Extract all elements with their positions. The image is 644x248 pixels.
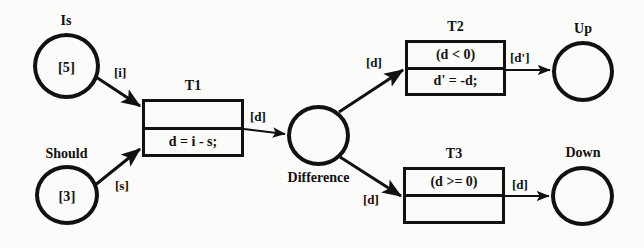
transition-action-t1: d = i - s;	[145, 130, 241, 155]
arc-label-difference-to-t2: [d]	[366, 55, 382, 71]
arc-t1-to-difference	[244, 129, 285, 134]
place-label-is: Is	[33, 13, 99, 29]
arc-is-to-t1	[96, 77, 140, 106]
place-label-difference: Difference	[268, 170, 369, 186]
place-up[interactable]	[552, 41, 614, 102]
place-label-should: Should	[20, 146, 113, 162]
transition-t2[interactable]: (d < 0) d' = -d;	[405, 40, 506, 96]
transition-t1[interactable]: d = i - s;	[142, 99, 244, 157]
arc-label-is-to-t1: [i]	[114, 65, 126, 81]
transition-guard-t1	[145, 102, 241, 130]
place-label-down: Down	[541, 145, 625, 161]
arc-label-difference-to-t3: [d]	[363, 192, 379, 208]
transition-t3[interactable]: (d >= 0)	[403, 167, 505, 224]
place-difference[interactable]	[287, 105, 350, 166]
place-is[interactable]: [5]	[33, 33, 100, 99]
transition-label-t2: T2	[405, 19, 506, 35]
transition-action-t2: d' = -d;	[408, 70, 503, 94]
arc-label-t1-to-difference: [d]	[250, 109, 266, 125]
place-token-should: [3]	[39, 189, 95, 205]
transition-label-t1: T1	[142, 78, 244, 94]
transition-guard-t2: (d < 0)	[408, 43, 503, 70]
transition-label-t3: T3	[403, 146, 505, 162]
petri-net-diagram: Is [5] Should [3] T1 d = i - s; Differen…	[0, 0, 644, 248]
arc-label-t2-to-up: [d']	[510, 50, 530, 66]
place-down[interactable]	[551, 166, 614, 226]
transition-action-t3	[406, 197, 502, 221]
arc-label-t3-to-down: [d]	[512, 177, 528, 193]
place-should[interactable]: [3]	[35, 165, 99, 225]
place-token-is: [5]	[37, 60, 96, 76]
arc-label-should-to-t1: [s]	[115, 178, 129, 194]
transition-guard-t3: (d >= 0)	[406, 170, 502, 197]
arc-difference-to-t2	[339, 70, 403, 112]
place-label-up: Up	[552, 21, 614, 37]
